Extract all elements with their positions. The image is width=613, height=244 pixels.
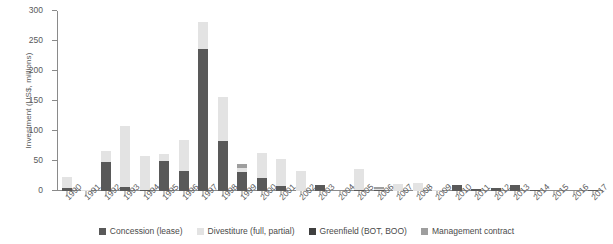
bar-group-1999[interactable] xyxy=(233,11,253,191)
bar-segment[interactable] xyxy=(159,154,169,161)
bar-group-2003[interactable] xyxy=(311,11,331,191)
bar-group-2009[interactable] xyxy=(428,11,448,191)
bar-group-1997[interactable] xyxy=(194,11,214,191)
bar-stack[interactable] xyxy=(257,153,267,191)
bar-group-1994[interactable] xyxy=(135,11,155,191)
bar-group-2013[interactable] xyxy=(506,11,526,191)
bar-group-2006[interactable] xyxy=(369,11,389,191)
legend-label: Greenfield (BOT, BOO) xyxy=(320,226,407,236)
y-tick-label-0: 0 xyxy=(38,185,43,195)
bar-stack[interactable] xyxy=(101,151,111,191)
legend-swatch-icon xyxy=(421,228,428,235)
chart-legend: Concession (lease)Divestiture (full, par… xyxy=(0,226,613,236)
bar-group-1998[interactable] xyxy=(213,11,233,191)
bar-group-2012[interactable] xyxy=(486,11,506,191)
bar-group-2000[interactable] xyxy=(252,11,272,191)
bar-group-1995[interactable] xyxy=(155,11,175,191)
bar-stack[interactable] xyxy=(120,126,130,191)
bar-stack[interactable] xyxy=(198,22,208,191)
bar-series-group xyxy=(57,11,603,191)
bar-group-2002[interactable] xyxy=(291,11,311,191)
bar-group-2007[interactable] xyxy=(389,11,409,191)
bar-segment[interactable] xyxy=(257,153,267,178)
bar-stack[interactable] xyxy=(179,140,189,191)
y-tick-label-300: 300 xyxy=(29,5,43,15)
legend-swatch-icon xyxy=(99,228,106,235)
bar-group-2015[interactable] xyxy=(545,11,565,191)
bar-group-2004[interactable] xyxy=(330,11,350,191)
bar-segment[interactable] xyxy=(101,151,111,162)
investment-bar-chart: Investment (US$, millions) 0501001502002… xyxy=(0,0,613,244)
bar-segment[interactable] xyxy=(140,156,150,190)
bar-group-1992[interactable] xyxy=(96,11,116,191)
legend-label: Management contract xyxy=(432,226,514,236)
legend-label: Divestiture (full, partial) xyxy=(208,226,295,236)
bar-group-2011[interactable] xyxy=(467,11,487,191)
bar-segment[interactable] xyxy=(120,126,130,187)
legend-greenfield[interactable]: Greenfield (BOT, BOO) xyxy=(309,226,407,236)
legend-label: Concession (lease) xyxy=(110,226,183,236)
legend-swatch-icon xyxy=(309,228,316,235)
bar-segment[interactable] xyxy=(198,49,208,191)
legend-swatch-icon xyxy=(197,228,204,235)
bar-group-2001[interactable] xyxy=(272,11,292,191)
bar-segment[interactable] xyxy=(218,141,228,191)
bar-segment[interactable] xyxy=(276,159,286,185)
bar-group-1996[interactable] xyxy=(174,11,194,191)
y-tick-label-200: 200 xyxy=(29,65,43,75)
bar-group-2017[interactable] xyxy=(584,11,604,191)
bar-segment[interactable] xyxy=(198,22,208,49)
bar-group-2008[interactable] xyxy=(408,11,428,191)
bar-group-2014[interactable] xyxy=(525,11,545,191)
bar-segment[interactable] xyxy=(218,97,228,141)
y-tick-label-100: 100 xyxy=(29,125,43,135)
bar-group-1990[interactable] xyxy=(57,11,77,191)
legend-management[interactable]: Management contract xyxy=(421,226,514,236)
bar-group-2005[interactable] xyxy=(350,11,370,191)
legend-concession[interactable]: Concession (lease) xyxy=(99,226,183,236)
bar-segment[interactable] xyxy=(179,140,189,171)
bar-group-2016[interactable] xyxy=(564,11,584,191)
bar-group-2010[interactable] xyxy=(447,11,467,191)
y-tick-label-150: 150 xyxy=(29,95,43,105)
bar-group-1993[interactable] xyxy=(116,11,136,191)
y-tick-label-250: 250 xyxy=(29,35,43,45)
bar-stack[interactable] xyxy=(218,97,228,191)
legend-divestiture[interactable]: Divestiture (full, partial) xyxy=(197,226,295,236)
y-tick-label-50: 50 xyxy=(34,155,43,165)
plot-area: 050100150200250300 199019911992199319941… xyxy=(57,11,603,191)
bar-group-1991[interactable] xyxy=(77,11,97,191)
